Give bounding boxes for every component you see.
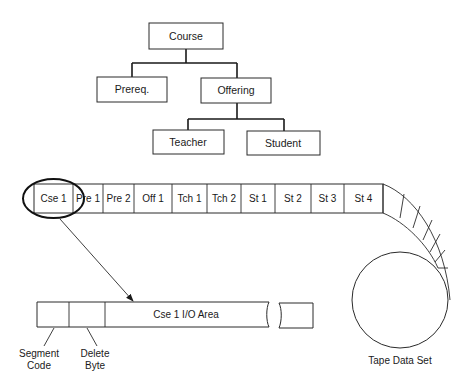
tape-reel-circle — [352, 252, 448, 348]
arrow-to-io-area — [60, 219, 133, 301]
node-teacher-label: Teacher — [169, 136, 207, 148]
node-offering: Offering — [201, 78, 271, 103]
node-prereq-label: Prereq. — [115, 83, 149, 95]
diagram-canvas: Course Prereq. Offering Teacher Student … — [0, 0, 464, 383]
segment-tch1: Tch 1 — [178, 193, 202, 204]
segment-pre2: Pre 2 — [107, 193, 131, 204]
segment-st1: St 1 — [249, 193, 267, 204]
segment-tch2: Tch 2 — [212, 193, 236, 204]
tape-outer-edge — [383, 184, 450, 300]
segment-code-label-line1: Segment — [19, 348, 59, 359]
segment-code-label-line2: Code — [27, 360, 51, 371]
segment-off1: Off 1 — [142, 193, 164, 204]
io-area-label: Cse 1 I/O Area — [153, 309, 219, 320]
tape-inner-edge — [383, 213, 438, 268]
segment-st4: St 4 — [355, 193, 373, 204]
io-area-continuation-box — [279, 303, 313, 328]
node-course-label: Course — [169, 30, 203, 42]
segment-st3: St 3 — [319, 193, 337, 204]
delete-byte-leader — [87, 328, 97, 346]
tape-data-set-label: Tape Data Set — [368, 355, 432, 366]
node-student-label: Student — [265, 137, 301, 149]
segment-st2: St 2 — [284, 193, 302, 204]
node-offering-label: Offering — [217, 84, 254, 96]
tape-strip: Cse 1 Pre 1 Pre 2 Off 1 Tch 1 Tch 2 St 1… — [23, 179, 383, 218]
node-student: Student — [247, 131, 320, 155]
tree-connector-course — [132, 49, 237, 78]
node-prereq: Prereq. — [97, 77, 167, 102]
node-teacher: Teacher — [153, 130, 224, 154]
delete-byte-label-line1: Delete — [81, 348, 110, 359]
segment-code-leader — [44, 328, 54, 346]
segment-cse1: Cse 1 — [40, 193, 67, 204]
io-area: Cse 1 I/O Area Segment Code Delete Byte — [19, 302, 313, 371]
node-course: Course — [149, 23, 223, 49]
segment-pre1: Pre 1 — [76, 193, 100, 204]
hierarchy-tree: Course Prereq. Offering Teacher Student — [97, 23, 320, 155]
tree-connector-offering — [188, 103, 284, 131]
delete-byte-label-line2: Byte — [85, 360, 105, 371]
